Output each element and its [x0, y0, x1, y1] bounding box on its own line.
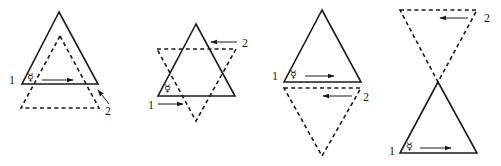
label-2: 2 — [363, 90, 369, 104]
dashed-triangle-2 — [284, 88, 361, 156]
label-2: 2 — [242, 36, 248, 50]
panel-4: ☿ 1 2 — [389, 10, 490, 158]
mercury-symbol: ☿ — [164, 82, 171, 95]
label-2: 2 — [484, 11, 490, 25]
label-1: 1 — [148, 98, 154, 112]
label-1: 1 — [389, 144, 395, 158]
panel-3: ☿ 1 2 — [272, 10, 369, 156]
label-1: 1 — [9, 73, 15, 87]
arrow-2-pointer — [98, 90, 109, 104]
label-2: 2 — [105, 104, 111, 118]
dashed-triangle-2 — [400, 10, 477, 82]
panel-1: ☿ 1 2 — [9, 12, 111, 118]
label-1: 1 — [272, 69, 278, 83]
mercury-symbol: ☿ — [406, 140, 413, 153]
panel-2: ☿ 2 1 — [148, 24, 248, 121]
mercury-symbol: ☿ — [27, 71, 34, 84]
mercury-symbol: ☿ — [290, 68, 297, 81]
triangles-figure: ☿ 1 2 ☿ 2 1 ☿ 1 2 ☿ 1 2 — [0, 0, 501, 166]
